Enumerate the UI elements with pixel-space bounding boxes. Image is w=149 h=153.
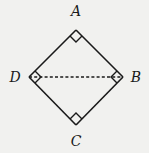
vertex-label-d: D [8,69,20,85]
vertex-label-b: B [130,69,141,85]
side-da [29,30,76,77]
side-ab [76,30,123,77]
vertex-label-c: C [71,133,82,149]
square-diagram: A B C D [0,0,149,153]
side-cd [29,77,76,125]
right-angle-mark-a [70,36,82,42]
right-angle-mark-c [70,113,82,119]
side-bc [76,77,123,125]
vertex-label-a: A [69,3,81,19]
